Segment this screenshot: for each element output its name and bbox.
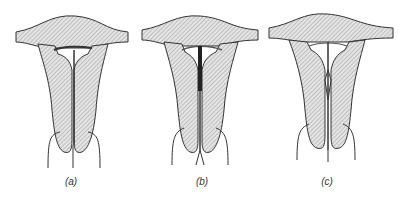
panel-a-label: (a): [51, 176, 91, 187]
uterus-right-wall: [202, 42, 238, 153]
panel-b-diagram: [130, 0, 265, 175]
panel-a-diagram: [0, 0, 135, 175]
panel-c-label: (c): [307, 176, 347, 187]
uterus-left-wall: [164, 42, 198, 153]
fundus-wall: [16, 16, 128, 48]
uterus-left-wall: [289, 40, 325, 149]
fundus-wall: [269, 14, 393, 42]
threads: [196, 150, 204, 165]
fundus-wall: [142, 16, 258, 46]
iud-stem: [198, 46, 202, 91]
panel-c-diagram: [263, 0, 398, 175]
panel-b-label: (b): [182, 176, 222, 187]
uterus-right-wall: [74, 44, 108, 153]
uterus-right-wall: [331, 40, 365, 149]
uterus-left-wall: [38, 44, 72, 153]
